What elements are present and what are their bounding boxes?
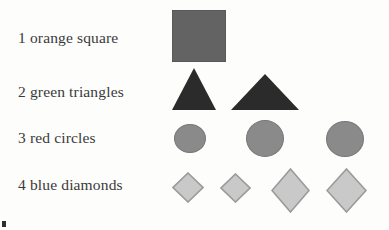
diamond-glyph — [326, 168, 367, 213]
row-label-green-triangles: 2 green triangles — [18, 84, 124, 100]
square-glyph — [172, 10, 226, 62]
diamond-glyph — [172, 172, 204, 203]
row-label-blue-diamonds: 4 blue diamonds — [18, 177, 123, 193]
diamond-glyph — [271, 168, 310, 213]
shapes-pictograph-figure: 1 orange square 2 green triangles 3 red … — [0, 0, 389, 230]
row-label-orange-square: 1 orange square — [18, 30, 118, 46]
diamond-glyph — [220, 173, 251, 203]
circle-glyph — [174, 124, 206, 153]
row-label-red-circles: 3 red circles — [18, 130, 96, 146]
scan-artifact-mark — [2, 221, 6, 227]
triangle-glyph — [231, 74, 299, 110]
triangle-glyph — [172, 68, 216, 110]
circle-glyph — [326, 121, 364, 157]
circle-glyph — [246, 120, 284, 157]
